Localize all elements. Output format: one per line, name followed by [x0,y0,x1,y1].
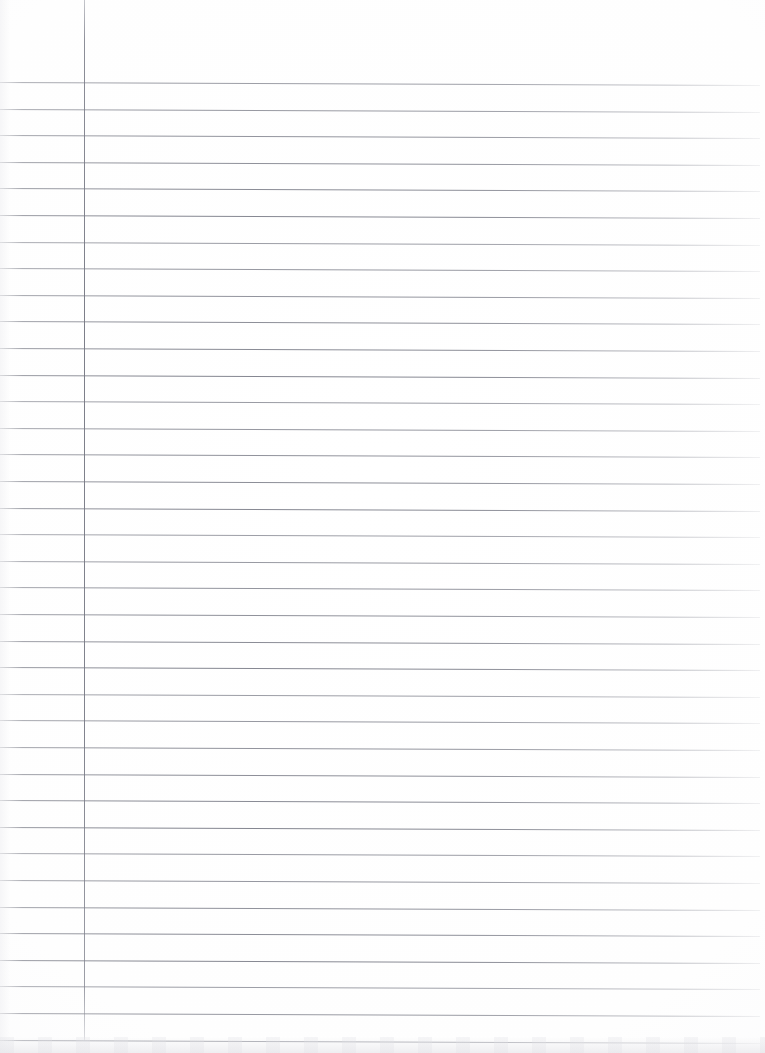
scanned-page [0,0,765,1053]
writing-area[interactable] [0,0,765,1053]
scan-bottom-edge-shading [0,1037,765,1053]
